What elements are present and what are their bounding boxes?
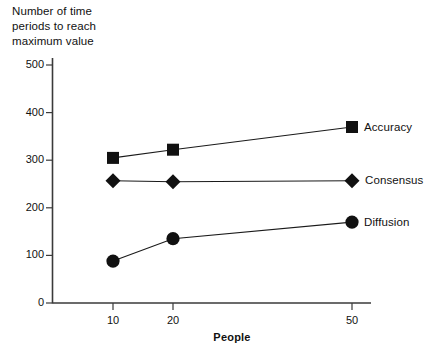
plot-area [0,0,424,358]
series-diffusion-point-50 [345,216,358,229]
y-tick-label-300: 300 [4,153,44,165]
series-label-accuracy: Accuracy [364,121,412,133]
series-consensus-point-20 [166,174,181,189]
x-tick-label-50: 50 [337,314,367,326]
series-diffusion-point-20 [166,232,179,245]
series-consensus-point-10 [106,173,121,188]
x-axis-title: People [192,331,272,343]
series-accuracy-point-20 [167,144,179,156]
y-tick-label-0: 0 [4,296,44,308]
y-tick-label-200: 200 [4,201,44,213]
y-tick-label-400: 400 [4,106,44,118]
series-consensus [106,173,360,189]
y-axis-ticks [46,65,53,303]
series-diffusion-point-10 [106,255,119,268]
series-label-consensus: Consensus [365,174,423,186]
series-consensus-point-50 [345,173,360,188]
x-tick-label-10: 10 [98,314,128,326]
y-tick-label-100: 100 [4,248,44,260]
series-accuracy-line [113,127,352,158]
series-diffusion [106,216,358,268]
chart-container: Number of time periods to reach maximum … [0,0,424,358]
series-accuracy-point-50 [346,121,358,133]
series-accuracy [107,121,358,164]
x-axis-ticks [113,303,352,310]
series-accuracy-point-10 [107,152,119,164]
y-tick-label-500: 500 [4,58,44,70]
series-diffusion-line [113,222,352,261]
x-tick-label-20: 20 [158,314,188,326]
series-consensus-line [113,181,352,182]
series-label-diffusion: Diffusion [364,216,409,228]
